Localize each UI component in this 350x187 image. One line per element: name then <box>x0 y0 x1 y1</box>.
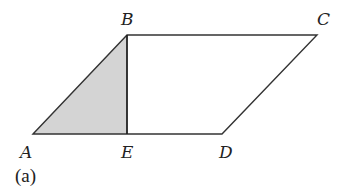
vertex-label-c: C <box>317 9 330 29</box>
vertex-label-e: E <box>120 142 134 162</box>
vertex-label-d: D <box>218 142 233 162</box>
vertex-label-b: B <box>120 9 134 29</box>
parallelogram-diagram: B C A E D (a) <box>0 0 350 187</box>
vertex-label-a: A <box>18 142 32 162</box>
figure-caption: (a) <box>15 165 36 187</box>
